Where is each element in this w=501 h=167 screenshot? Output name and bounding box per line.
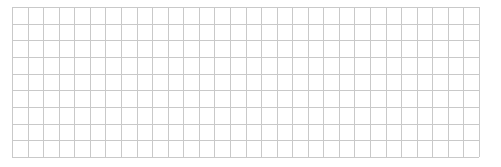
grid-vertical-line (168, 7, 169, 157)
grid-vertical-line (463, 7, 464, 157)
grid-vertical-line (308, 7, 309, 157)
grid-horizontal-line (12, 74, 479, 75)
grid-vertical-line (401, 7, 402, 157)
grid-vertical-line (432, 7, 433, 157)
grid-vertical-line (323, 7, 324, 157)
grid-vertical-line (261, 7, 262, 157)
grid-vertical-line (137, 7, 138, 157)
grid-horizontal-line (12, 24, 479, 25)
grid-vertical-line (370, 7, 371, 157)
grid-vertical-line (90, 7, 91, 157)
grid-vertical-line (121, 7, 122, 157)
grid-vertical-line (12, 7, 13, 157)
grid-vertical-line (74, 7, 75, 157)
grid-vertical-line (417, 7, 418, 157)
grid-horizontal-line (12, 7, 479, 8)
grid-horizontal-line (12, 40, 479, 41)
grid-paper (12, 7, 479, 157)
grid-horizontal-line (12, 57, 479, 58)
grid-vertical-line (386, 7, 387, 157)
grid-horizontal-line (12, 157, 479, 158)
grid-vertical-line (199, 7, 200, 157)
grid-horizontal-line (12, 140, 479, 141)
grid-horizontal-line (12, 107, 479, 108)
grid-vertical-line (43, 7, 44, 157)
grid-vertical-line (183, 7, 184, 157)
grid-vertical-line (479, 7, 480, 157)
grid-horizontal-line (12, 90, 479, 91)
grid-vertical-line (105, 7, 106, 157)
grid-vertical-line (152, 7, 153, 157)
grid-vertical-line (448, 7, 449, 157)
grid-horizontal-line (12, 124, 479, 125)
grid-vertical-line (339, 7, 340, 157)
grid-vertical-line (246, 7, 247, 157)
grid-vertical-line (59, 7, 60, 157)
grid-vertical-line (277, 7, 278, 157)
grid-vertical-line (214, 7, 215, 157)
grid-vertical-line (354, 7, 355, 157)
grid-vertical-line (230, 7, 231, 157)
grid-vertical-line (292, 7, 293, 157)
grid-vertical-line (28, 7, 29, 157)
